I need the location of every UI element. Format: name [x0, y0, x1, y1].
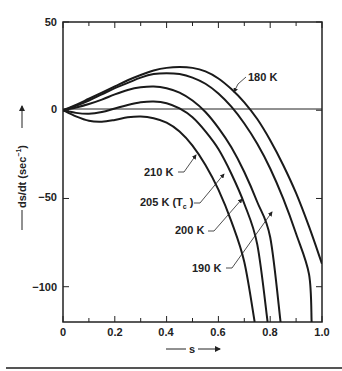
y-tick-minus-100: −100	[32, 281, 57, 293]
x-tick-0.4: 0.4	[158, 326, 174, 338]
label-205K: 205 K (Tc )	[140, 196, 194, 210]
label-200K: 200 K	[175, 224, 204, 236]
x-tick-0.6: 0.6	[210, 326, 225, 338]
y-tick-50: 50	[45, 16, 57, 28]
leader-210	[178, 155, 196, 172]
x-axis-title: s	[189, 343, 195, 355]
leader-180	[234, 77, 246, 92]
curves	[63, 67, 322, 322]
leader-205	[194, 174, 224, 203]
label-180K: 180 K	[248, 71, 277, 83]
svg-text:ds/dt (sec−1): ds/dt (sec−1)	[15, 145, 28, 208]
bottom-rule	[6, 367, 342, 369]
label-190K: 190 K	[192, 262, 221, 274]
y-tick-0: 0	[51, 103, 57, 115]
y-tick-minus-50: −50	[38, 191, 57, 203]
x-tick-0: 0	[60, 326, 66, 338]
curve-205K	[63, 101, 268, 322]
curve-210K	[63, 110, 255, 322]
x-tick-0.2: 0.2	[107, 326, 122, 338]
annotation-leaders	[178, 77, 272, 268]
x-tick-1.0: 1.0	[314, 326, 329, 338]
label-210K: 210 K	[144, 166, 173, 178]
x-tick-0.8: 0.8	[262, 326, 277, 338]
chart: 50 0 −50 −100 0 0.2 0.4 0.6 0.8 1.0 s ds…	[0, 0, 342, 371]
y-axis-title: ds/dt (sec−1)	[15, 106, 28, 230]
